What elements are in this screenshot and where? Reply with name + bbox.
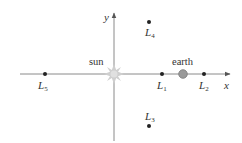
l2-point	[202, 72, 206, 76]
l3-label: L3	[144, 110, 155, 124]
l3-point	[147, 124, 151, 128]
l1-label: L1	[156, 79, 167, 93]
l5-label: L5	[37, 79, 48, 93]
sun-label: sun	[89, 56, 104, 67]
l2-label: L2	[198, 79, 209, 93]
earth-icon	[179, 70, 188, 79]
l5-point	[43, 72, 47, 76]
l4-label: L4	[144, 26, 155, 40]
earth-label: earth	[172, 56, 194, 67]
x-axis-label: x	[223, 79, 229, 91]
l4-point	[147, 20, 151, 24]
lagrange-diagram: x y sun earth L1 L2 L3 L4 L5	[0, 0, 242, 143]
sun-icon	[104, 64, 124, 84]
l1-point	[160, 72, 164, 76]
y-axis-label: y	[103, 11, 109, 23]
